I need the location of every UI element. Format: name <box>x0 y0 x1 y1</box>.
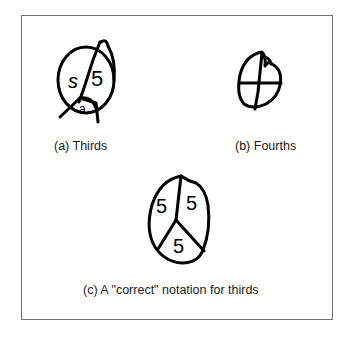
svg-text:s: s <box>68 70 78 92</box>
svg-text:5: 5 <box>173 235 184 257</box>
svg-text:5: 5 <box>186 192 197 214</box>
drawing-b-fourths <box>239 52 281 109</box>
drawing-a-thirds: s 5 a <box>58 41 114 122</box>
drawing-c-thirds: 5 5 5 <box>149 176 209 263</box>
svg-text:5: 5 <box>156 195 167 217</box>
caption-c: (c) A "correct" notation for thirds <box>83 283 259 297</box>
caption-a: (a) Thirds <box>54 139 107 153</box>
caption-b: (b) Fourths <box>235 139 296 153</box>
svg-text:a: a <box>79 102 86 116</box>
svg-text:5: 5 <box>91 66 103 91</box>
